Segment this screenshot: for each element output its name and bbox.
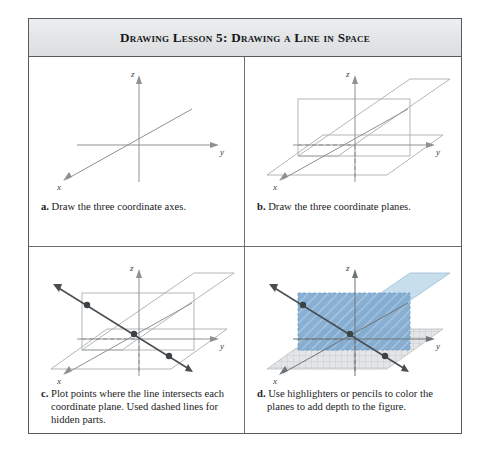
- line-intersections-diagram: z y x: [29, 247, 245, 387]
- intersection-point-3: [166, 353, 172, 359]
- z-arrowhead: [136, 75, 142, 84]
- yz-plane-outline: [298, 99, 410, 156]
- intersection-point-2: [347, 331, 353, 337]
- panel-c-figure: z y x: [29, 247, 244, 387]
- y-axis-label: y: [435, 341, 440, 351]
- figure-header: Drawing Lesson 5: Drawing a Line in Spac…: [29, 19, 461, 57]
- axis-arrowheads: [63, 75, 219, 181]
- panel-a-figure: z y x: [29, 57, 244, 197]
- panel-a-caption-text: Draw the three coordinate axes.: [52, 201, 186, 212]
- intersection-point-2: [131, 331, 137, 337]
- panel-d: z y x d. Use highlighters or pencils to …: [245, 247, 461, 433]
- panel-c: z y x c. Plot points where the line inte…: [29, 247, 245, 433]
- x-axis-label: x: [272, 376, 277, 386]
- coordinate-planes-group: [51, 273, 234, 369]
- panel-d-figure: z y x: [245, 247, 461, 387]
- figure-title: Drawing Lesson 5: Drawing a Line in Spac…: [120, 30, 370, 46]
- panel-c-marker: c.: [41, 388, 48, 399]
- panel-a-caption: a. Draw the three coordinate axes.: [41, 200, 236, 213]
- x-axis-label: x: [56, 182, 61, 192]
- coordinate-planes-diagram: z y x: [245, 57, 461, 197]
- x-axis-line: [67, 303, 192, 373]
- intersection-point-1: [300, 302, 306, 308]
- z-axis-label: z: [345, 69, 350, 79]
- y-axis-label: y: [219, 147, 224, 157]
- space-line-arrowhead-start: [269, 284, 278, 292]
- panel-c-caption-text: Plot points where the line intersects ea…: [51, 388, 224, 425]
- z-arrowhead: [136, 269, 142, 278]
- x-arrowhead: [63, 366, 72, 375]
- panel-d-caption-text: Use highlighters or pencils to color the…: [267, 388, 433, 412]
- axis-arrowheads: [63, 269, 219, 375]
- x-axis-label: x: [56, 376, 61, 386]
- panel-c-caption: c. Plot points where the line intersects…: [41, 387, 236, 427]
- x-axis-line: [67, 109, 192, 179]
- z-arrowhead: [352, 75, 358, 84]
- panel-grid: z y x a. Draw the three coordinate axes.: [29, 57, 461, 433]
- z-arrowhead: [352, 269, 358, 278]
- panel-a: z y x a. Draw the three coordinate axes.: [29, 57, 245, 247]
- panel-d-caption: d. Use highlighters or pencils to color …: [257, 387, 453, 413]
- colored-planes-diagram: z y x: [245, 247, 461, 387]
- x-axis-label: x: [272, 182, 277, 192]
- coordinate-planes-group: [267, 79, 450, 175]
- y-arrowhead: [426, 142, 435, 148]
- space-line-group: [53, 284, 193, 372]
- intersection-point-1: [84, 302, 90, 308]
- x-axis-line: [283, 109, 408, 179]
- panel-b-figure: z y x: [245, 57, 461, 197]
- yz-plane-outline: [82, 293, 194, 350]
- z-axis-label: z: [129, 263, 134, 273]
- coordinate-axes-diagram: z y x: [29, 57, 245, 197]
- y-arrowhead: [210, 142, 219, 148]
- intersection-point-3: [382, 353, 388, 359]
- x-arrowhead: [63, 172, 72, 181]
- space-line-arrowhead-start: [53, 284, 62, 292]
- panel-b-marker: b.: [257, 201, 266, 212]
- y-axis-label: y: [435, 147, 440, 157]
- panel-b-caption: b. Draw the three coordinate planes.: [257, 200, 453, 213]
- x-arrowhead: [279, 172, 288, 181]
- y-arrowhead: [210, 336, 219, 342]
- panel-b-caption-text: Draw the three coordinate planes.: [268, 201, 411, 212]
- panel-b: z y x b. Draw the three coordinate plane…: [245, 57, 461, 247]
- panel-a-marker: a.: [41, 201, 49, 212]
- yz-plane-shaded: [298, 293, 410, 350]
- axis-arrowheads: [279, 75, 435, 181]
- y-axis-label: y: [219, 341, 224, 351]
- z-axis-label: z: [345, 263, 350, 273]
- figure-frame: Drawing Lesson 5: Drawing a Line in Spac…: [28, 18, 462, 434]
- z-axis-label: z: [130, 69, 135, 79]
- panel-d-marker: d.: [257, 388, 266, 399]
